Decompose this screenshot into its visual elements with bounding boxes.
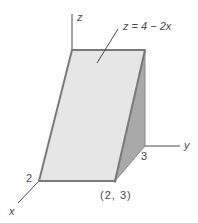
y-axis-label: y xyxy=(184,140,190,151)
x-tick-label: 2 xyxy=(26,173,32,184)
wedge-diagram xyxy=(0,0,198,223)
y-tick-label: 3 xyxy=(141,151,147,162)
x-axis-label: x xyxy=(9,206,15,217)
z-axis-label: z xyxy=(77,12,83,23)
surface-equation-label: z = 4 − 2x xyxy=(123,21,171,32)
x-axis xyxy=(18,181,39,203)
corner-point-marker xyxy=(114,180,117,183)
corner-point-label: (2, 3) xyxy=(100,190,132,201)
